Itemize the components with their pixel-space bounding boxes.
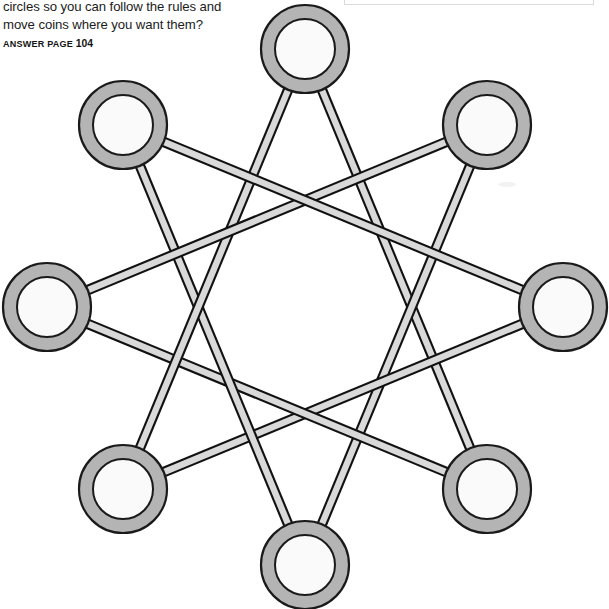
- coin-circle-top-right[interactable]: [443, 81, 531, 169]
- puzzle-text-line-1: circles so you can follow the rules and: [3, 0, 263, 16]
- coin-circle-top-left[interactable]: [79, 81, 167, 169]
- coin-circle-well: [275, 535, 335, 595]
- puzzle-text-block: circles so you can follow the rules and …: [3, 0, 263, 49]
- coin-circle-bottom-left[interactable]: [79, 445, 167, 533]
- coin-circle-well: [93, 95, 153, 155]
- coin-circle-well: [457, 95, 517, 155]
- answer-page-label: ANSWER PAGE: [3, 38, 73, 49]
- coin-circle-well: [457, 459, 517, 519]
- coin-circle-bottom[interactable]: [261, 521, 349, 609]
- coin-circle-well: [17, 277, 77, 337]
- coin-circle-left[interactable]: [3, 263, 91, 351]
- answer-page-number: 104: [76, 37, 93, 49]
- coin-circle-top[interactable]: [261, 5, 349, 93]
- star-network-diagram: [0, 0, 609, 609]
- coin-circle-well: [275, 19, 335, 79]
- node-layer: [3, 5, 607, 609]
- puzzle-text-line-2: move coins where you want them?: [3, 16, 263, 34]
- coin-circle-well: [533, 277, 593, 337]
- star-network-svg: [0, 0, 609, 609]
- coin-circle-bottom-right[interactable]: [443, 445, 531, 533]
- coin-circle-well: [93, 459, 153, 519]
- coin-circle-right[interactable]: [519, 263, 607, 351]
- answer-page-reference: ANSWER PAGE 104: [3, 37, 247, 49]
